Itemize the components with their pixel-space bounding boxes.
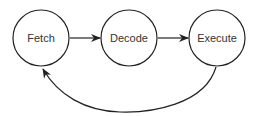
node-fetch: Fetch (13, 10, 69, 66)
node-decode: Decode (101, 10, 157, 66)
diagram-canvas: Fetch Decode Execute (0, 0, 254, 116)
execute-label: Execute (197, 32, 237, 44)
decode-label: Decode (110, 32, 148, 44)
arrow-execute-to-fetch (43, 67, 216, 112)
fetch-label: Fetch (27, 32, 55, 44)
node-execute: Execute (189, 10, 245, 66)
cycle-diagram: Fetch Decode Execute (0, 0, 254, 116)
